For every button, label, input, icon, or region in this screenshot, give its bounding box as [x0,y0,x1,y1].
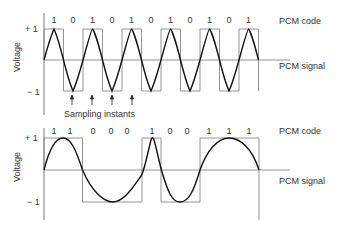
top-bit: 1 [51,15,56,25]
bottom-bit: 1 [246,126,251,136]
bottom-bit: 0 [167,126,172,136]
top-bit: 1 [207,15,212,25]
top-bit: 0 [187,15,192,25]
bottom-bit: 1 [51,126,56,136]
bottom-pcm-code-label: PCM code [279,126,321,136]
pcm-diagram: + 1 − 1 Voltage 1 0 1 0 1 0 1 0 1 0 1 PC… [0,0,339,229]
bottom-bit: 1 [206,126,211,136]
sampling-instant-arrows [71,95,134,105]
top-tick-plus1: + 1 [25,24,38,34]
top-panel: + 1 − 1 Voltage 1 0 1 0 1 0 1 0 1 0 1 PC… [12,13,325,119]
top-bit: 0 [70,15,75,25]
bottom-bit: 0 [108,126,113,136]
top-bit: 1 [168,15,173,25]
top-bit: 1 [129,15,134,25]
top-voltage-label: Voltage [12,42,22,72]
bottom-bit: 1 [67,126,72,136]
top-pcm-signal-label: PCM signal [279,61,325,71]
bottom-pcm-signal-label: PCM signal [279,176,325,186]
bottom-bit: 0 [124,126,129,136]
top-bit: 0 [226,15,231,25]
top-bit: 0 [148,15,153,25]
bottom-voltage-label: Voltage [12,152,22,182]
top-bit: 0 [109,15,114,25]
bottom-pcm-code-bits: 1 1 0 0 0 1 0 0 1 1 1 [51,126,251,136]
bottom-panel: + 1 − 1 Voltage 1 1 0 0 0 1 0 0 1 1 1 PC… [12,126,325,220]
top-bit: 1 [246,15,251,25]
sampling-instants-label: Sampling instants [64,109,136,119]
bottom-bit: 1 [226,126,231,136]
bottom-bit: 0 [184,126,189,136]
top-tick-minus1: − 1 [27,87,40,97]
bottom-pcm-square-wave [44,138,259,220]
bottom-tick-plus1: + 1 [25,133,38,143]
bottom-bit: 0 [90,126,95,136]
bottom-tick-minus1: − 1 [27,197,40,207]
top-pcm-code-bits: 1 0 1 0 1 0 1 0 1 0 1 [51,15,251,25]
top-pcm-code-label: PCM code [279,16,321,26]
top-bit: 1 [90,15,95,25]
bottom-bit: 1 [149,126,154,136]
